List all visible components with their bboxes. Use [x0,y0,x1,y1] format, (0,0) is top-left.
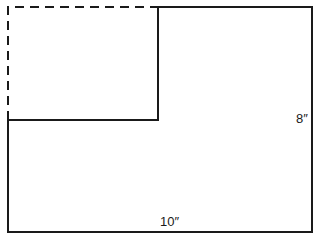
diagram-canvas: 8″ 10″ [0,0,316,236]
height-label: 8″ [296,111,308,126]
width-label: 10″ [160,214,179,229]
solid-shape-outline [8,7,312,232]
dashed-removed-corner [8,7,158,120]
